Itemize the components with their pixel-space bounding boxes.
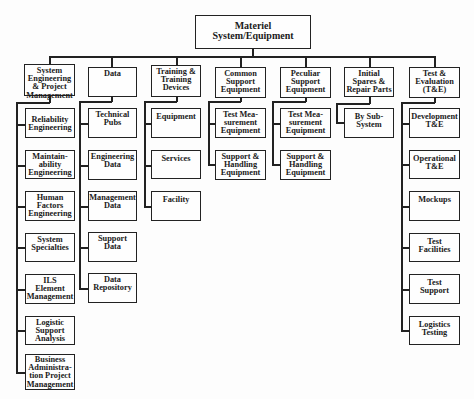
drop-2 <box>176 56 178 65</box>
child-reliability-engineering: Reliability Engineering <box>25 108 75 138</box>
child-label: Business Administra- tion Project Manage… <box>26 356 74 389</box>
child-ils-element-management: ILS Element Management <box>25 274 75 304</box>
drop-3 <box>240 56 242 67</box>
spine-3-b <box>208 101 241 103</box>
spine-4 <box>272 101 274 165</box>
spine-5-b <box>336 103 370 105</box>
spine-6-b <box>401 102 435 104</box>
tick <box>401 164 409 166</box>
spine-5 <box>336 103 338 123</box>
branch-test-evaluation: Test & Evaluation (T&E) <box>409 67 460 98</box>
child-label: Support Data <box>89 235 136 251</box>
branch-label: Training & Training Devices <box>152 68 200 93</box>
child-label: Human Factors Engineering <box>26 194 74 219</box>
spine-4-b <box>272 101 306 103</box>
tick <box>79 247 88 249</box>
child-label: Mockups <box>410 196 459 204</box>
root-label: Materiel System/Equipment <box>196 21 310 41</box>
child-label: Services <box>152 155 200 163</box>
drop-6 <box>434 56 436 67</box>
tick <box>16 165 25 167</box>
branch-initial-spares: Initial Spares & Repair Parts <box>344 67 394 97</box>
child-label: Technical Pubs <box>89 111 136 127</box>
child-test-support: Test Support <box>409 274 460 304</box>
child-peculiar-support-handling-equipment: Support & Handling Equipment <box>280 150 331 180</box>
child-data-repository: Data Repository <box>88 273 137 303</box>
spine-6 <box>401 102 403 331</box>
tick <box>16 124 25 126</box>
branch-common-support: Common Support Equipment <box>215 67 266 98</box>
child-label: Support & Handling Equipment <box>281 153 330 178</box>
child-engineering-data: Engineering Data <box>88 150 137 180</box>
spine-0-b <box>16 102 50 104</box>
branch-training: Training & Training Devices <box>151 65 201 97</box>
spine-0 <box>16 102 18 372</box>
branch-label: Common Support Equipment <box>216 70 265 95</box>
child-common-support-handling-equipment: Support & Handling Equipment <box>215 150 266 180</box>
tick <box>79 288 88 290</box>
branch-label: Initial Spares & Repair Parts <box>345 70 393 95</box>
child-logistic-support-analysis: Logistic Support Analysis <box>25 316 75 345</box>
branch-label: Test & Evaluation (T&E) <box>410 70 459 95</box>
spine-3 <box>208 101 210 165</box>
child-label: Test Facilities <box>410 238 459 254</box>
child-training-services: Services <box>151 150 201 179</box>
tick <box>336 122 344 124</box>
child-label: Engineering Data <box>89 153 136 169</box>
tick <box>401 330 409 332</box>
child-development-te: Development T&E <box>409 108 460 138</box>
child-peculiar-test-measurement-equipment: Test Mea- surement Equipment <box>280 108 331 138</box>
tick <box>16 289 25 291</box>
child-label: System Specialties <box>26 236 74 252</box>
child-label: Management Data <box>89 194 136 210</box>
branch-label: Peculiar Support Equipment <box>281 70 330 95</box>
tick <box>16 372 25 374</box>
child-management-data: Management Data <box>88 191 137 221</box>
tick <box>16 330 25 332</box>
branch-data: Data <box>88 67 137 97</box>
child-operational-te: Operational T&E <box>409 150 460 179</box>
branch-peculiar-support: Peculiar Support Equipment <box>280 67 331 98</box>
child-label: Test Support <box>410 279 459 295</box>
child-technical-pubs: Technical Pubs <box>88 108 137 138</box>
tick <box>79 165 88 167</box>
spine-2-b <box>144 101 177 103</box>
tick <box>401 247 409 249</box>
drop-1 <box>111 56 113 67</box>
child-by-subsystem: By Sub- System <box>344 108 394 138</box>
child-label: Logistic Support Analysis <box>26 319 74 344</box>
spine-1 <box>79 101 81 288</box>
tick <box>16 247 25 249</box>
child-label: Facility <box>152 196 200 204</box>
child-business-administration-pm: Business Administra- tion Project Manage… <box>25 354 75 390</box>
child-label: Logistics Testing <box>410 321 459 337</box>
drop-0 <box>49 56 51 64</box>
tick <box>272 123 280 125</box>
spine-2 <box>144 101 146 206</box>
child-training-facility: Facility <box>151 191 201 221</box>
child-label: By Sub- System <box>345 113 393 129</box>
tick <box>401 289 409 291</box>
child-common-test-measurement-equipment: Test Mea- surement Equipment <box>215 108 266 138</box>
child-label: Operational T&E <box>410 155 459 171</box>
child-label: Development T&E <box>410 113 459 129</box>
child-support-data: Support Data <box>88 232 137 262</box>
tick <box>16 206 25 208</box>
child-label: ILS Element Management <box>26 277 74 302</box>
child-label: Test Mea- surement Equipment <box>281 111 330 136</box>
child-system-specialties: System Specialties <box>25 233 75 262</box>
branch-label: System Engineering & Project Management <box>25 67 74 100</box>
branch-system-engineering: System Engineering & Project Management <box>24 64 75 96</box>
child-training-equipment: Equipment <box>151 108 201 138</box>
tick <box>79 206 88 208</box>
child-label: Reliability Engineering <box>26 116 74 132</box>
branch-label: Data <box>89 70 136 78</box>
child-label: Maintain- ability Engineering <box>26 153 74 178</box>
child-mockups: Mockups <box>409 191 460 221</box>
child-label: Equipment <box>152 113 200 121</box>
child-label: Test Mea- surement Equipment <box>216 111 265 136</box>
tick <box>272 164 280 166</box>
drop-4 <box>305 56 307 67</box>
child-label: Support & Handling Equipment <box>216 153 265 178</box>
tick <box>401 123 409 125</box>
